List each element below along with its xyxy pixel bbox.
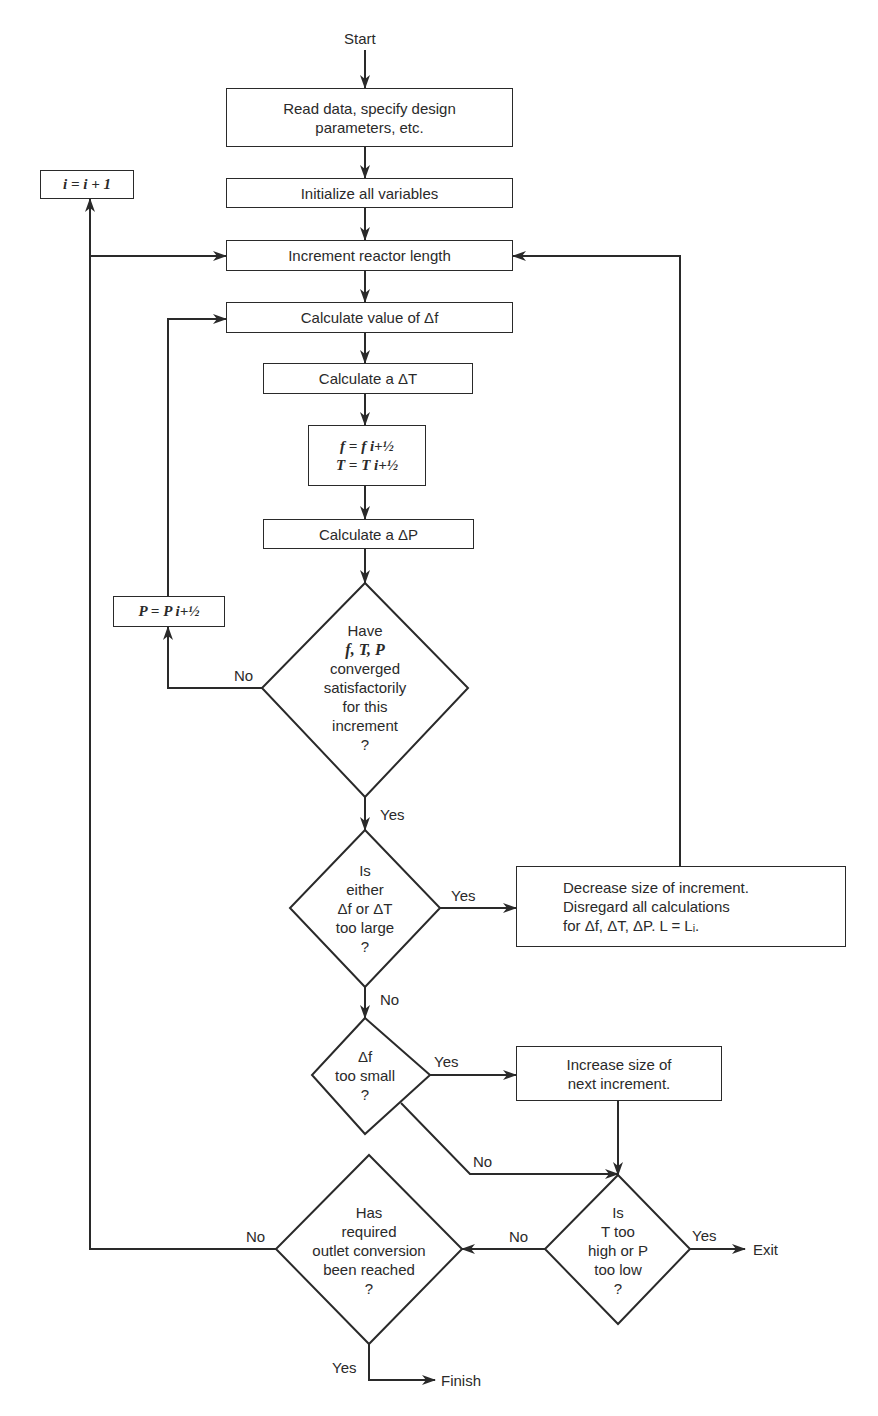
read-data-line2: parameters, etc. [315, 118, 423, 137]
box-text: Disregard all calculations [563, 897, 730, 916]
decision-text: ? [614, 1279, 622, 1298]
box-text: next increment. [568, 1074, 671, 1093]
too-small-yes-label: Yes [434, 1053, 458, 1070]
t-update-line: T = T i+½ [336, 456, 398, 475]
read-data-box: Read data, specify design parameters, et… [226, 88, 513, 147]
decrease-increment-box: Decrease size of increment. Disregard al… [516, 866, 846, 947]
decision-text: outlet conversion [312, 1241, 425, 1260]
decision-text: T too [601, 1222, 635, 1241]
decision-text: increment [332, 716, 398, 735]
increment-i-box: i = i + 1 [40, 170, 134, 199]
decision-text: Has [356, 1203, 383, 1222]
decision-text: ? [361, 937, 369, 956]
decision-text: too large [336, 918, 394, 937]
decision-text: either [346, 880, 384, 899]
box-text: Increase size of [566, 1055, 671, 1074]
outlet-yes-label: Yes [332, 1359, 356, 1376]
outlet-no-label: No [246, 1228, 265, 1245]
decision-text: too low [594, 1260, 642, 1279]
decision-text: Have [347, 621, 382, 640]
decision-text: converged [330, 659, 400, 678]
converged-decision: Have f, T, P converged satisfactorily fo… [295, 612, 435, 762]
increase-increment-box: Increase size of next increment. [516, 1046, 722, 1101]
calc-delta-f-box: Calculate value of Δf [226, 302, 513, 333]
calc-delta-p-box: Calculate a ΔP [263, 519, 474, 549]
too-large-yes-label: Yes [451, 887, 475, 904]
too-large-decision: Is either Δf or ΔT too large ? [305, 858, 425, 958]
increment-length-box: Increment reactor length [226, 240, 513, 271]
decision-text: f, T, P [345, 640, 384, 659]
decision-text: been reached [323, 1260, 415, 1279]
finish-terminal: Finish [441, 1372, 481, 1389]
start-terminal: Start [344, 30, 376, 47]
box-text: Decrease size of increment. [563, 878, 749, 897]
t-p-limit-decision: Is T too high or P too low ? [568, 1200, 668, 1300]
update-f-t-box: f = f i+½ T = T i+½ [308, 425, 426, 486]
decision-text: ? [361, 1085, 369, 1104]
t-p-no-label: No [509, 1228, 528, 1245]
decision-text: ? [361, 735, 369, 754]
t-p-yes-label: Yes [692, 1227, 716, 1244]
decision-text: too small [335, 1066, 395, 1085]
update-p-box: P = P i+½ [113, 596, 225, 627]
decision-text: Δf [358, 1047, 372, 1066]
outlet-conversion-decision: Has required outlet conversion been reac… [294, 1200, 444, 1300]
calc-delta-t-box: Calculate a ΔT [263, 363, 473, 394]
read-data-line1: Read data, specify design [283, 99, 456, 118]
too-large-no-label: No [380, 991, 399, 1008]
decision-text: for this [342, 697, 387, 716]
box-text: for Δf, ΔT, ΔP. L = Lᵢ. [563, 916, 699, 935]
initialize-box: Initialize all variables [226, 178, 513, 208]
decision-text: Δf or ΔT [337, 899, 392, 918]
decision-text: ? [365, 1279, 373, 1298]
converged-no-label: No [234, 667, 253, 684]
f-update-line: f = f i+½ [340, 437, 394, 456]
too-small-decision: Δf too small ? [320, 1045, 410, 1105]
exit-terminal: Exit [753, 1241, 778, 1258]
decision-text: Is [612, 1203, 624, 1222]
converged-yes-label: Yes [380, 806, 404, 823]
decision-text: satisfactorily [324, 678, 407, 697]
decision-text: Is [359, 861, 371, 880]
decision-text: high or P [588, 1241, 648, 1260]
decision-text: required [341, 1222, 396, 1241]
too-small-no-label: No [473, 1153, 492, 1170]
